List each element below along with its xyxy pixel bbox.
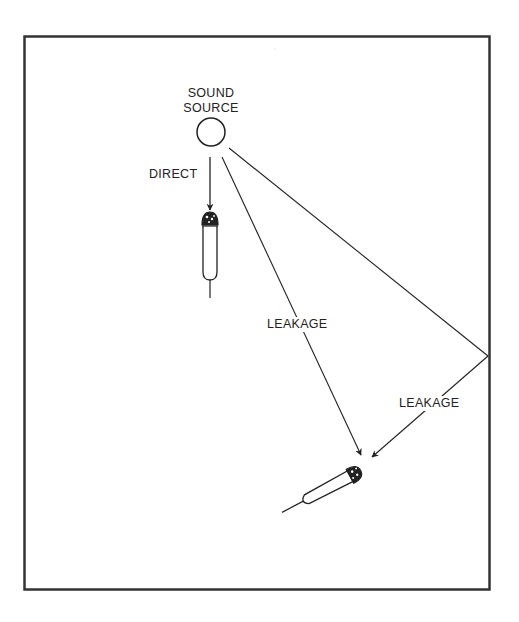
sound-source-circle <box>197 118 225 146</box>
microphone-direct-icon <box>202 212 218 298</box>
diagram-canvas <box>0 0 519 622</box>
microphone-leakage-icon <box>278 464 364 520</box>
sound-source-label-line1: SOUND <box>181 86 241 101</box>
direct-label: DIRECT <box>149 167 197 182</box>
leakage-direct-label: LEAKAGE <box>266 317 328 332</box>
sound-source-label-line2: SOURCE <box>181 101 241 116</box>
leakage-direct-path-arrow <box>222 157 361 455</box>
leakage-reflected-label: LEAKAGE <box>398 396 460 411</box>
room-frame <box>25 37 490 590</box>
